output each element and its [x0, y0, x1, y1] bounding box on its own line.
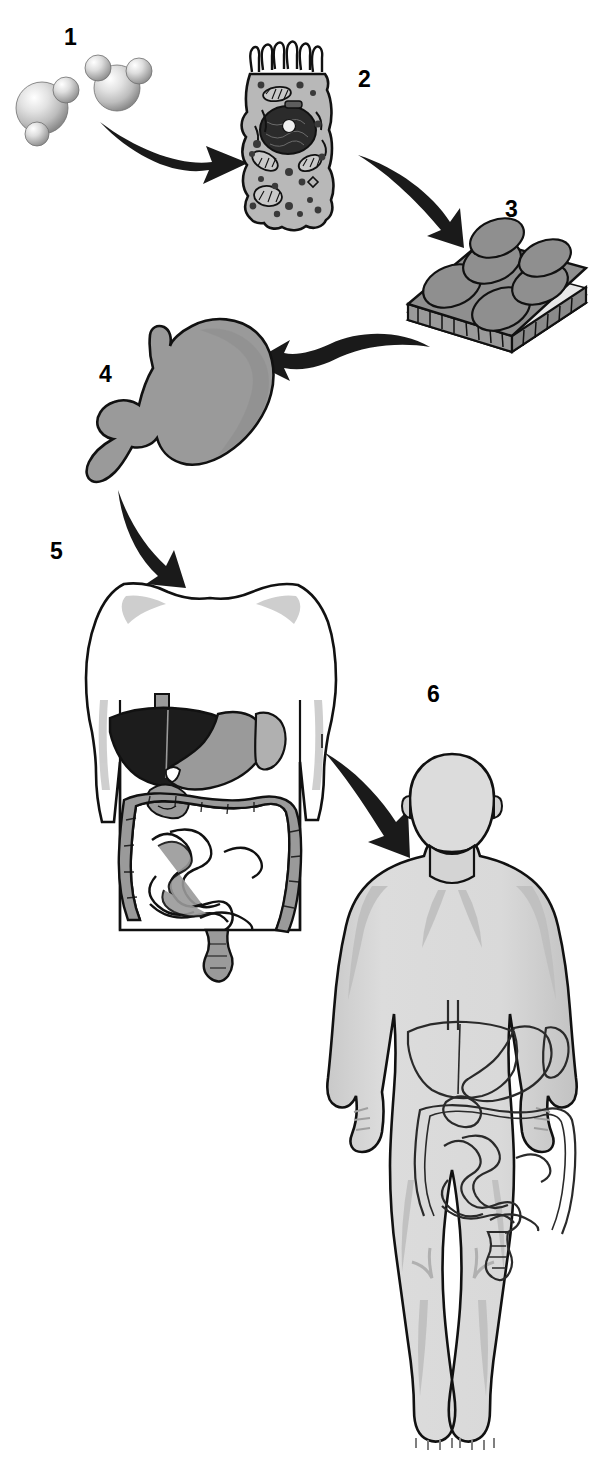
arrow-tissue-to-organ	[252, 334, 430, 381]
step-label-2: 2	[358, 68, 371, 91]
arrow-molecules-to-cell	[100, 122, 248, 184]
arrow-cell-to-tissue	[358, 155, 464, 248]
step-label-5: 5	[50, 540, 63, 563]
arrow-organ-to-system	[118, 490, 186, 588]
step-label-6: 6	[427, 683, 440, 706]
cell-icon	[242, 42, 334, 231]
arrow-system-to-organism	[322, 734, 410, 858]
molecules-icon	[16, 55, 152, 146]
step-label-3: 3	[505, 198, 518, 221]
human-body-icon	[327, 754, 576, 1450]
stomach-icon	[87, 319, 274, 482]
step-label-4: 4	[99, 363, 112, 386]
digestive-system-icon	[86, 583, 336, 981]
tissue-icon	[408, 211, 586, 352]
levels-of-organization-figure: 1 2 3 4 5 6	[0, 0, 599, 1484]
step-label-1: 1	[64, 26, 77, 49]
figure-canvas	[0, 0, 599, 1484]
